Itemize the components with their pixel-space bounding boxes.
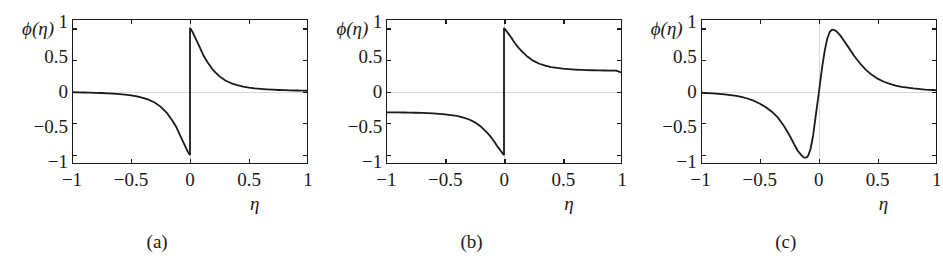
curve-c xyxy=(701,19,937,164)
x-tick-b-m0p5: −0.5 xyxy=(428,170,462,189)
figure-panels-row: ϕ(η) 1 0.5 0 −0.5 −1 xyxy=(0,0,943,265)
x-tick-b-1: 1 xyxy=(618,170,628,189)
panel-caption-c: (c) xyxy=(629,232,943,251)
y-tick-b-0p5: 0.5 xyxy=(338,47,382,66)
x-tick-c-0p5: 0.5 xyxy=(866,170,890,189)
x-tick-c-0: 0 xyxy=(814,170,824,189)
panel-caption-a: (a) xyxy=(0,232,314,251)
panel-a: ϕ(η) 1 0.5 0 −0.5 −1 xyxy=(0,0,314,265)
x-tick-a-0p5: 0.5 xyxy=(237,170,261,189)
plot-area-b xyxy=(386,19,622,164)
y-tick-a-0: 0 xyxy=(24,82,68,101)
panel-c: ϕ(η) 1 0.5 0 −0.5 −1 xyxy=(629,0,943,265)
x-axis-label-b: η xyxy=(564,194,573,213)
y-tick-c-0: 0 xyxy=(653,82,697,101)
x-tick-a-m1: −1 xyxy=(62,170,82,189)
y-tick-b-m0p5: −0.5 xyxy=(338,117,382,136)
plot-area-c xyxy=(701,19,937,164)
x-axis-label-c: η xyxy=(879,194,888,213)
plot-area-a xyxy=(72,19,308,164)
y-tick-c-m0p5: −0.5 xyxy=(653,117,697,136)
y-tick-b-1: 1 xyxy=(338,12,382,31)
x-tick-c-1: 1 xyxy=(932,170,942,189)
x-tick-labels-a: −1 −0.5 0 0.5 1 xyxy=(72,170,308,196)
x-tick-c-m0p5: −0.5 xyxy=(742,170,776,189)
y-tick-a-0p5: 0.5 xyxy=(24,47,68,66)
x-tick-labels-c: −1 −0.5 0 0.5 1 xyxy=(701,170,937,196)
x-tick-a-0: 0 xyxy=(185,170,195,189)
x-tick-a-1: 1 xyxy=(303,170,313,189)
y-tick-labels-b: 1 0.5 0 −0.5 −1 xyxy=(326,0,382,265)
x-axis-label-a: η xyxy=(250,194,259,213)
curve-a xyxy=(72,19,308,164)
y-tick-labels-a: 1 0.5 0 −0.5 −1 xyxy=(12,0,68,265)
x-tick-c-m1: −1 xyxy=(691,170,711,189)
panel-b: ϕ(η) 1 0.5 0 −0.5 −1 xyxy=(314,0,628,265)
y-tick-c-0p5: 0.5 xyxy=(653,47,697,66)
y-tick-a-m0p5: −0.5 xyxy=(24,117,68,136)
x-tick-labels-b: −1 −0.5 0 0.5 1 xyxy=(386,170,622,196)
x-tick-a-m0p5: −0.5 xyxy=(114,170,148,189)
curve-b xyxy=(386,19,622,164)
x-tick-b-m1: −1 xyxy=(376,170,396,189)
y-tick-b-0: 0 xyxy=(338,82,382,101)
y-tick-labels-c: 1 0.5 0 −0.5 −1 xyxy=(641,0,697,265)
panel-caption-b: (b) xyxy=(314,232,628,251)
y-tick-a-1: 1 xyxy=(24,12,68,31)
x-tick-b-0p5: 0.5 xyxy=(551,170,575,189)
x-tick-b-0: 0 xyxy=(500,170,510,189)
y-tick-c-1: 1 xyxy=(653,12,697,31)
